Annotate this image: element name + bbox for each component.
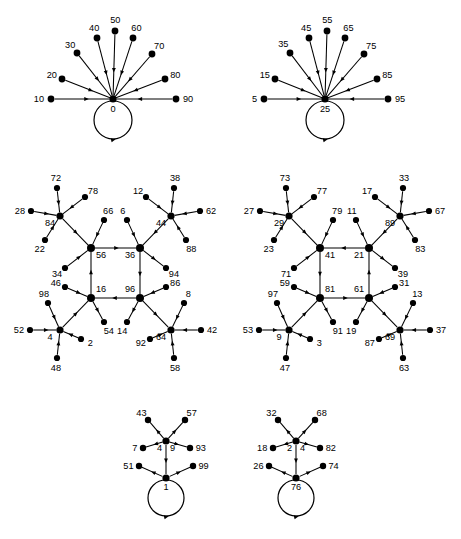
figure-canvas: 1020304050607080900515354555657585952572… <box>0 0 461 539</box>
node-35 <box>287 50 294 57</box>
node-85 <box>374 76 381 83</box>
node-65 <box>342 35 349 42</box>
node-13 <box>410 300 416 306</box>
label-17: 17 <box>362 186 372 196</box>
label-2: 2 <box>88 338 93 348</box>
label-66: 66 <box>103 206 113 216</box>
node-26 <box>266 463 272 469</box>
edge-arrowhead <box>182 328 187 332</box>
label-63: 63 <box>399 363 409 373</box>
label-47: 47 <box>280 363 290 373</box>
node-75 <box>361 51 368 58</box>
label-70: 70 <box>154 41 164 51</box>
node-2 <box>292 437 299 444</box>
node-43 <box>145 417 151 423</box>
node-61 <box>365 294 373 302</box>
node-5 <box>261 96 268 103</box>
node-72 <box>54 185 60 191</box>
edge-15-to-25 <box>278 80 322 97</box>
node-74 <box>320 463 326 469</box>
label-20: 20 <box>47 70 57 80</box>
label-14: 14 <box>117 326 127 336</box>
node-97 <box>274 300 280 306</box>
label-43: 43 <box>136 408 146 418</box>
node-40 <box>94 35 101 42</box>
label-91: 91 <box>333 326 343 336</box>
label-67: 67 <box>435 206 445 216</box>
edge-arrowhead <box>120 70 124 75</box>
label-53: 53 <box>243 325 253 335</box>
label-5: 5 <box>252 94 257 104</box>
label-88: 88 <box>186 244 196 254</box>
label-21: 21 <box>354 250 364 260</box>
edge-30-to-0 <box>79 56 111 97</box>
edge-arrowhead <box>350 97 355 101</box>
node-47 <box>283 355 289 361</box>
label-78: 78 <box>88 186 98 196</box>
node-45 <box>306 35 313 42</box>
node-93 <box>187 445 193 451</box>
node-15 <box>272 76 279 83</box>
node-21 <box>365 244 373 252</box>
node-8 <box>181 300 187 306</box>
label-99: 99 <box>198 461 208 471</box>
label-18: 18 <box>257 443 267 453</box>
label-97: 97 <box>268 289 278 299</box>
label-73: 73 <box>280 173 290 183</box>
node-4 <box>162 437 169 444</box>
edge-40-to-0 <box>98 41 112 95</box>
node-86 <box>163 284 169 290</box>
edge-arrowhead <box>182 211 187 215</box>
label-15: 15 <box>260 70 270 80</box>
edge-arrowhead <box>297 97 302 101</box>
label-22: 22 <box>35 244 45 254</box>
node-16 <box>87 294 95 302</box>
label-55: 55 <box>322 15 332 25</box>
node-18 <box>270 445 276 451</box>
label-54: 54 <box>104 326 114 336</box>
label-62: 62 <box>206 206 216 216</box>
label-68: 68 <box>317 408 327 418</box>
node-67 <box>426 208 432 214</box>
label-13: 13 <box>412 289 422 299</box>
node-92 <box>147 336 153 342</box>
label-6: 6 <box>120 206 125 216</box>
label-58: 58 <box>170 363 180 373</box>
edge-arrowhead <box>112 68 116 73</box>
node-2 <box>78 336 84 342</box>
label-79: 79 <box>332 206 342 216</box>
label-0: 0 <box>110 104 115 114</box>
label-87: 87 <box>365 338 375 348</box>
edge-arrowhead <box>164 458 168 463</box>
label-69: 69 <box>385 332 395 342</box>
node-37 <box>427 327 433 333</box>
node-11 <box>353 217 359 223</box>
node-91 <box>330 319 336 325</box>
node-73 <box>283 185 289 191</box>
node-54 <box>101 319 107 325</box>
node-76 <box>292 474 299 481</box>
label-19: 19 <box>346 326 356 336</box>
label-76: 76 <box>291 482 301 492</box>
node-80 <box>162 76 169 83</box>
node-83 <box>412 237 418 243</box>
label-30: 30 <box>65 40 75 50</box>
label-36: 36 <box>125 250 135 260</box>
label-10: 10 <box>34 94 44 104</box>
label-32: 32 <box>266 408 276 418</box>
node-98 <box>45 300 51 306</box>
edge-arrowhead <box>138 97 143 101</box>
node-14 <box>124 319 130 325</box>
label-4: 4 <box>300 443 305 453</box>
edge-arrowhead <box>114 246 119 250</box>
node-48 <box>54 355 60 361</box>
node-28 <box>28 208 34 214</box>
node-10 <box>48 96 55 103</box>
edge-arrowhead <box>138 272 142 277</box>
label-25: 25 <box>320 104 330 114</box>
node-88 <box>183 237 189 243</box>
label-1: 1 <box>163 482 168 492</box>
node-36 <box>136 244 144 252</box>
node-27 <box>257 208 263 214</box>
edge-arrowhead <box>411 328 416 332</box>
